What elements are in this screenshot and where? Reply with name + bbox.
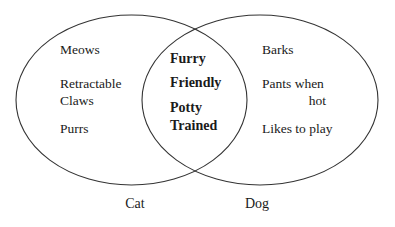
cat-item-meows: Meows (60, 41, 100, 58)
cat-item-claws: Claws (60, 92, 94, 109)
shared-item-friendly: Friendly (170, 74, 221, 91)
cat-item-purrs: Purrs (60, 120, 89, 137)
venn-text-layer: Meows Retractable Claws Purrs Furry Frie… (0, 0, 395, 227)
dog-item-pants-when: Pants when (262, 75, 324, 92)
cat-set-label: Cat (105, 196, 165, 212)
dog-set-label: Dog (227, 196, 287, 212)
dog-item-likes-to-play: Likes to play (262, 120, 333, 137)
cat-item-retractable: Retractable (60, 75, 121, 92)
shared-item-furry: Furry (170, 50, 206, 67)
dog-item-hot: hot (262, 92, 326, 109)
venn-diagram: Meows Retractable Claws Purrs Furry Frie… (0, 0, 395, 227)
shared-item-potty: Potty (170, 99, 202, 116)
dog-item-barks: Barks (262, 41, 294, 58)
shared-item-trained: Trained (170, 117, 217, 134)
